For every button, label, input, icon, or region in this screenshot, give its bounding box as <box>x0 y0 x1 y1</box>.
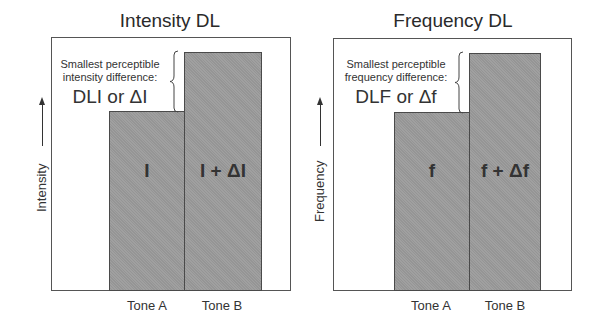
annotation: Smallest perceptible frequency differenc… <box>345 58 448 108</box>
bar-label-tone-b: f + Δf <box>481 160 529 182</box>
frequency-dl-panel: Frequency DL f f + Δf Smallest perceptib… <box>0 0 599 326</box>
annotation-line-1: Smallest perceptible <box>345 58 448 71</box>
tone-label-b: Tone B <box>485 298 525 313</box>
y-axis-label: Frequency <box>312 161 327 222</box>
panel-title: Frequency DL <box>393 10 512 32</box>
bar-tone-a <box>394 112 470 291</box>
curly-brace-icon <box>453 51 465 114</box>
tone-label-a: Tone A <box>411 298 451 313</box>
axis-arrow-line <box>320 104 321 146</box>
annotation-symbol: DLF or Δf <box>345 86 448 108</box>
annotation-line-2: frequency difference: <box>345 71 448 84</box>
bar-label-tone-a: f <box>429 160 435 182</box>
